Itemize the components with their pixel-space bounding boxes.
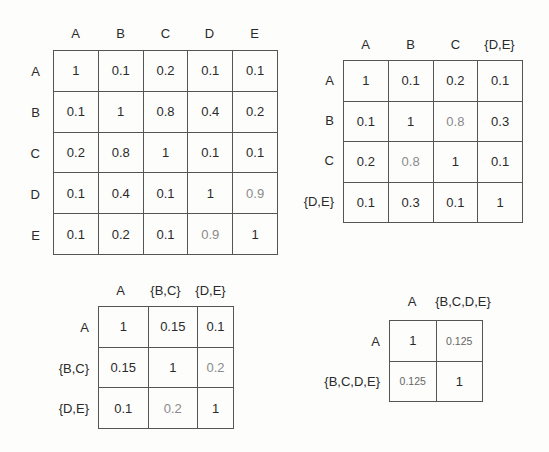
- matrix-cell-highlighted: 0.125: [436, 321, 483, 362]
- matrix-cell: 1: [98, 91, 143, 132]
- matrix-cell: 1: [344, 61, 389, 102]
- matrix-cell: 0.1: [143, 173, 188, 214]
- row-header: B: [10, 105, 40, 120]
- matrix-cell: 0.2: [233, 91, 278, 132]
- matrix-cell: 0.2: [433, 61, 478, 102]
- column-header: {D,E}: [188, 283, 233, 298]
- matrix-cell: 0.1: [98, 51, 143, 92]
- row-header: E: [10, 228, 40, 243]
- matrix-cell: 0.1: [433, 182, 478, 223]
- matrix-grid: 1 0.1 0.2 0.1 0.1 1 0.8 0.3 0.2 0.8 1 0.…: [343, 60, 523, 223]
- matrix-cell-highlighted: 0.2: [198, 347, 234, 388]
- matrix-cell-highlighted: 0.125: [390, 361, 437, 402]
- column-header: {B,C,D,E}: [428, 294, 498, 309]
- row-header: {D,E}: [290, 194, 334, 209]
- column-header: A: [98, 283, 143, 298]
- matrix-cell: 1: [54, 51, 99, 92]
- table-row: 0.1 0.2 1: [99, 388, 234, 429]
- matrix-cell-highlighted: 0.9: [188, 214, 233, 255]
- matrix-cell-highlighted: 0.8: [388, 142, 433, 183]
- matrix-cell: 1: [99, 307, 149, 348]
- matrix-cell: 0.1: [99, 388, 149, 429]
- matrix-cell: 1: [233, 214, 278, 255]
- row-header: A: [290, 73, 334, 88]
- column-header: A: [53, 26, 98, 41]
- matrix-cell-highlighted: 0.9: [233, 173, 278, 214]
- column-header: {D,E}: [477, 37, 522, 52]
- row-header: D: [10, 187, 40, 202]
- row-header: C: [10, 146, 40, 161]
- matrix-cell: 0.4: [98, 173, 143, 214]
- table-row: 0.1 0.3 0.1 1: [344, 182, 523, 223]
- table-row: 0.2 0.8 1 0.1 0.1: [54, 132, 278, 173]
- matrix-cell: 1: [143, 132, 188, 173]
- table-row: 0.1 1 0.8 0.3: [344, 101, 523, 142]
- matrix-cell: 0.15: [148, 307, 198, 348]
- matrix-cell: 0.3: [478, 101, 523, 142]
- matrix-cell: 0.1: [188, 51, 233, 92]
- row-header: {B,C,D,E}: [300, 374, 380, 389]
- matrix-cell: 1: [436, 361, 483, 402]
- column-header: D: [187, 26, 232, 41]
- matrix-cell: 0.1: [54, 214, 99, 255]
- column-header: B: [98, 26, 143, 41]
- matrix-cell: 0.1: [344, 101, 389, 142]
- matrix-cell: 0.2: [54, 132, 99, 173]
- matrix-cell: 0.2: [98, 214, 143, 255]
- table-row: 0.1 0.4 0.1 1 0.9: [54, 173, 278, 214]
- row-header: A: [10, 64, 40, 79]
- table-row: 0.2 0.8 1 0.1: [344, 142, 523, 183]
- column-header: C: [143, 26, 188, 41]
- row-header: B: [290, 113, 334, 128]
- matrix-cell: 1: [478, 182, 523, 223]
- matrix-cell: 0.1: [344, 182, 389, 223]
- matrix-cell: 0.3: [388, 182, 433, 223]
- column-header: C: [433, 37, 478, 52]
- row-header: {B,C}: [40, 361, 89, 376]
- matrix-cell: 0.1: [54, 173, 99, 214]
- matrix-cell: 0.1: [233, 51, 278, 92]
- matrix-cell: 0.2: [344, 142, 389, 183]
- table-row: 0.15 1 0.2: [99, 347, 234, 388]
- matrix-cell: 1: [198, 388, 234, 429]
- matrix-cell: 0.1: [478, 61, 523, 102]
- matrix-cell: 1: [433, 142, 478, 183]
- matrix-cell: 0.15: [99, 347, 149, 388]
- matrix-cell: 1: [388, 101, 433, 142]
- matrix-cell: 0.1: [54, 91, 99, 132]
- table-row: 1 0.125: [390, 321, 483, 362]
- matrix-cell: 0.1: [478, 142, 523, 183]
- column-header: {B,C}: [143, 283, 188, 298]
- row-header: A: [40, 320, 89, 335]
- table-row: 0.1 0.2 0.1 0.9 1: [54, 214, 278, 255]
- table-row: 1 0.1 0.2 0.1 0.1: [54, 51, 278, 92]
- matrix-cell: 0.8: [98, 132, 143, 173]
- matrix-cell: 0.1: [233, 132, 278, 173]
- matrix-grid: 1 0.15 0.1 0.15 1 0.2 0.1 0.2 1: [98, 306, 234, 429]
- table-row: 0.125 1: [390, 361, 483, 402]
- column-header: A: [343, 37, 388, 52]
- matrix-cell: 1: [390, 321, 437, 362]
- table-row: 1 0.15 0.1: [99, 307, 234, 348]
- column-header: B: [388, 37, 433, 52]
- matrix-cell: 0.4: [188, 91, 233, 132]
- matrix-grid: 1 0.125 0.125 1: [389, 320, 483, 402]
- matrix-cell: 0.1: [388, 61, 433, 102]
- table-row: 0.1 1 0.8 0.4 0.2: [54, 91, 278, 132]
- row-header: A: [300, 334, 380, 349]
- matrix-cell: 1: [148, 347, 198, 388]
- matrix-cell: 0.1: [143, 214, 188, 255]
- table-row: 1 0.1 0.2 0.1: [344, 61, 523, 102]
- column-header: E: [232, 26, 277, 41]
- matrix-cell-highlighted: 0.8: [433, 101, 478, 142]
- row-header: {D,E}: [40, 401, 89, 416]
- matrix-grid: 1 0.1 0.2 0.1 0.1 0.1 1 0.8 0.4 0.2 0.2 …: [53, 50, 278, 255]
- matrix-cell: 0.8: [143, 91, 188, 132]
- matrix-cell: 0.1: [198, 307, 234, 348]
- matrix-cell: 0.2: [143, 51, 188, 92]
- matrix-cell: 0.1: [188, 132, 233, 173]
- row-header: C: [290, 153, 334, 168]
- matrix-cell-highlighted: 0.2: [148, 388, 198, 429]
- matrix-cell: 1: [188, 173, 233, 214]
